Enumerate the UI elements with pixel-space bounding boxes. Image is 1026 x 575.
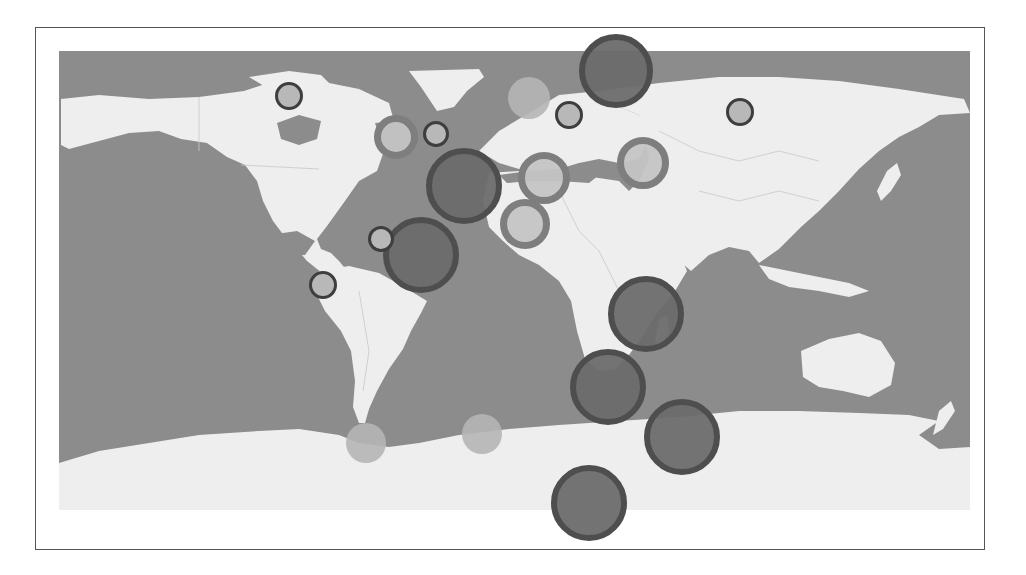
bubble-marker-drake-passage[interactable] bbox=[346, 423, 386, 463]
bubble-marker-tropical-atlantic[interactable] bbox=[386, 220, 456, 290]
bubble-marker-baltic[interactable] bbox=[557, 103, 582, 128]
bubble-marker-west-africa[interactable] bbox=[504, 203, 547, 246]
bubble-marker-central-asia[interactable] bbox=[621, 141, 666, 186]
bubble-marker-southern-indian[interactable] bbox=[647, 402, 717, 472]
bubble-marker-siberia[interactable] bbox=[728, 100, 753, 125]
bubble-marker-hudson-bay[interactable] bbox=[277, 84, 302, 109]
bubble-marker-peru[interactable] bbox=[311, 273, 336, 298]
bubble-marker-caribbean[interactable] bbox=[370, 228, 393, 251]
bubble-marker-north-atlantic[interactable] bbox=[429, 151, 499, 221]
bubble-marker-south-atlantic[interactable] bbox=[462, 414, 502, 454]
bubble-marker-mozambique-channel[interactable] bbox=[611, 279, 681, 349]
bubble-marker-norwegian-sea[interactable] bbox=[508, 77, 550, 119]
bubble-marker-barents-sea[interactable] bbox=[582, 37, 650, 105]
bubble-marker-north-atlantic-n[interactable] bbox=[425, 123, 448, 146]
world-map[interactable] bbox=[59, 51, 970, 510]
bubble-marker-mediterranean[interactable] bbox=[522, 156, 567, 201]
bubble-marker-antarctica-coast[interactable] bbox=[554, 468, 624, 538]
bubble-marker-south-africa-sea[interactable] bbox=[573, 352, 643, 422]
bubble-marker-labrador-sea[interactable] bbox=[378, 119, 415, 156]
world-map-svg bbox=[59, 51, 970, 510]
